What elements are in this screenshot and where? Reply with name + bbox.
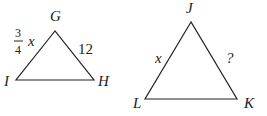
vertex-label-k: K xyxy=(243,95,255,111)
side-label-jl: x xyxy=(154,50,162,66)
fraction-denominator: 4 xyxy=(15,43,21,57)
fraction-numerator: 3 xyxy=(15,26,21,40)
vertex-label-j: J xyxy=(186,0,194,16)
side-label-gh: 12 xyxy=(78,41,93,57)
side-label-jk: ? xyxy=(226,50,234,66)
side-label-gi-variable: x xyxy=(27,33,35,49)
triangle-ghi: G I H 3 4 x 12 xyxy=(3,8,110,89)
similar-triangles-diagram: G I H 3 4 x 12 J L K x ? xyxy=(0,0,267,116)
vertex-label-h: H xyxy=(97,73,110,89)
triangle-jkl: J L K x ? xyxy=(132,0,255,111)
vertex-label-i: I xyxy=(3,73,10,89)
vertex-label-l: L xyxy=(132,95,141,111)
vertex-label-g: G xyxy=(50,8,61,24)
